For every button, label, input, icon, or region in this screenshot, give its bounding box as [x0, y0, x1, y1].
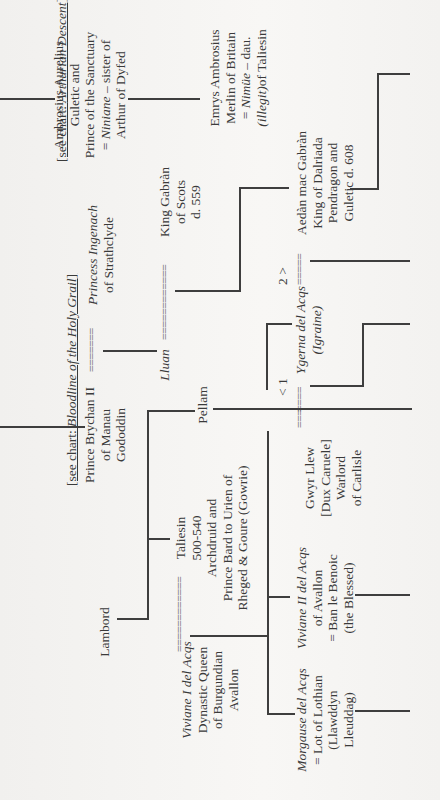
connector-line	[355, 594, 410, 596]
marriage-ygerna-aedan: =====	[293, 254, 308, 285]
connector-line	[213, 408, 412, 410]
connector-line	[190, 635, 268, 637]
node-lambord: Lambord	[97, 607, 113, 657]
connector-line	[147, 410, 195, 412]
connector-line	[350, 188, 378, 190]
connector-line	[362, 324, 364, 387]
connector-line	[117, 618, 147, 620]
see-chart-bloodline-note: [see chart: Bloodline of the Holy Grail]	[64, 274, 80, 486]
connector-line	[239, 188, 241, 292]
connector-line	[310, 260, 410, 262]
connector-line	[355, 710, 410, 712]
node-lluan: Lluan	[157, 349, 173, 381]
node-gwyr-llew: Gwyr Llew [Dux Caruele] Warlord of Carli…	[302, 439, 364, 517]
connector-line	[266, 323, 292, 325]
marriage-brychan-ingenach: =======	[85, 328, 100, 372]
marriage-lluan-gabran: ============	[158, 265, 173, 340]
marriage-order-second: 2 >	[275, 267, 291, 285]
node-viviane-i: Viviane I del Acqs Dynastic Queen of Bur…	[179, 641, 241, 738]
node-ygerna-del-acqs: Ygerna del Acqs (Igraine)	[293, 286, 324, 374]
connector-line	[377, 73, 410, 75]
connector-line	[0, 426, 85, 428]
node-morgause: Morgause del Acqs = Lot of Lothian (Llaw…	[294, 668, 356, 772]
genealogy-chart: [see chart: Bloodline of the Holy Grail]…	[0, 0, 440, 800]
connector-line	[128, 98, 200, 100]
connector-line	[0, 98, 55, 100]
node-viviane-ii: Viviane II del Acqs of Avallon = Ban le …	[294, 547, 356, 649]
connector-line	[103, 350, 157, 352]
book-page: [see chart: Bloodline of the Holy Grail]…	[0, 0, 440, 800]
node-king-gabran: King Gabràn of Scots d. 559	[157, 167, 204, 237]
connector-line	[267, 713, 295, 715]
node-emrys-ambrosius: Emrys Ambrosius Merlin of Britain = Nimü…	[207, 29, 269, 126]
marriage-order-first: < 1	[275, 378, 291, 396]
connector-line	[267, 596, 290, 598]
node-ambrosius-aurelius: Ambrosius Aurelius Guletic and Prince of…	[51, 32, 129, 158]
connector-line	[147, 411, 149, 620]
node-prince-brychan: Prince Brychan II of Manau Gododdin	[82, 387, 129, 483]
connector-line	[266, 324, 268, 390]
connector-line	[239, 187, 289, 189]
connector-line	[377, 75, 379, 190]
marriage-gwyr: ===	[293, 409, 308, 428]
connector-line	[267, 431, 269, 715]
connector-line	[147, 538, 170, 540]
connector-line	[175, 290, 240, 292]
connector-line	[310, 385, 363, 387]
node-aedan-mac-gabran: Aedàn mac Gabràn King of Dalriada Pendra…	[294, 131, 356, 235]
node-pellam: Pellam	[195, 386, 211, 424]
node-princess-ingenach: Princess Ingenach of Strathclyde	[85, 205, 116, 305]
connector-line	[362, 323, 410, 325]
